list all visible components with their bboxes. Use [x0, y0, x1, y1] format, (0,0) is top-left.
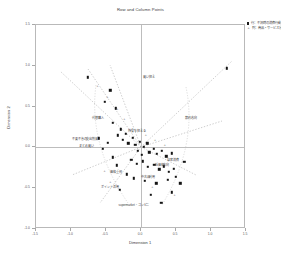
point-label: まとめ買い: [79, 144, 94, 148]
y-tick: [32, 106, 35, 107]
point-label: 自家消費: [167, 158, 179, 162]
data-point: [127, 142, 129, 144]
data-point: [160, 202, 162, 204]
data-point: [150, 194, 152, 196]
data-point: [155, 182, 157, 184]
y-tick: [32, 65, 35, 66]
y-tick-label: 1.5: [25, 22, 30, 26]
data-point: [124, 132, 126, 134]
data-point: +: [106, 97, 109, 100]
point-label: 中古品利用: [141, 175, 156, 179]
x-tick-label: -0.5: [102, 232, 108, 236]
data-point: +: [115, 108, 118, 111]
data-point: [226, 67, 228, 69]
x-tick: [105, 228, 106, 231]
data-point: [112, 156, 114, 158]
data-point: [179, 182, 181, 184]
y-tick: [32, 24, 35, 25]
data-point: [168, 171, 170, 173]
x-tick-label: 0.0: [138, 232, 143, 236]
point-label: 節約志向: [185, 116, 197, 120]
data-point: [107, 141, 109, 143]
y-tick-label: 0.0: [25, 144, 30, 148]
data-point: [133, 177, 135, 179]
x-tick-label: -1.0: [67, 232, 73, 236]
y-tick-label: 1.0: [25, 63, 30, 67]
data-point: [147, 166, 149, 168]
chart-title: Row and Column Points: [0, 7, 281, 12]
legend-plus-marker-icon: +: [247, 27, 250, 30]
legend-square-marker-icon: [247, 22, 249, 24]
data-point: [136, 163, 138, 165]
data-point: +: [163, 144, 166, 147]
data-point: +: [153, 139, 156, 142]
data-point: [134, 144, 136, 146]
data-point: [142, 160, 144, 162]
x-tick: [210, 228, 211, 231]
data-point: [173, 167, 175, 169]
point-label: 買い控え: [143, 75, 155, 79]
data-point: [87, 76, 89, 78]
data-point: [112, 122, 114, 124]
data-point: [171, 152, 173, 154]
data-point: [138, 140, 140, 142]
data-point: [158, 168, 160, 170]
point-label: ポイント活用: [101, 185, 119, 189]
data-point: [109, 89, 111, 91]
x-tick: [70, 228, 71, 231]
data-point: [126, 173, 128, 175]
plot-area: ++++++++++++ 買い控え節約志向代替購入不要不急の支出削減まとめ買い価…: [35, 24, 245, 228]
y-tick-label: -1.0: [24, 226, 30, 230]
data-point: [131, 136, 133, 138]
legend-item-columns: + 列：商品・サービス分野: [247, 26, 281, 31]
y-tick: [32, 228, 35, 229]
data-point: [146, 142, 148, 144]
data-point: +: [173, 195, 176, 198]
data-point: [161, 149, 163, 151]
data-point: [103, 101, 105, 103]
data-point: [175, 176, 177, 178]
data-point: +: [103, 170, 106, 173]
data-point: [165, 155, 167, 157]
point-label: 代替購入: [92, 116, 104, 120]
point-label: 外食を控える: [128, 129, 146, 133]
correspondence-analysis-chart: Row and Column Points ++++++++++++ 買い控え節…: [0, 0, 281, 260]
data-point: [166, 179, 168, 181]
data-point: [117, 134, 119, 136]
data-point: [122, 139, 124, 141]
data-point: [183, 161, 185, 163]
horizontal-zero-axis: [36, 147, 244, 148]
x-tick-label: 0.5: [173, 232, 178, 236]
y-tick-label: 0.5: [25, 104, 30, 108]
x-tick: [245, 228, 246, 231]
point-label: 価格重視: [110, 170, 122, 174]
data-point: [143, 145, 145, 147]
data-point: +: [96, 85, 99, 88]
x-tick-label: 1.5: [243, 232, 248, 236]
y-tick-label: -0.5: [24, 185, 30, 189]
data-point: +: [150, 186, 153, 189]
x-tick: [175, 228, 176, 231]
x-tick-label: -1.5: [32, 232, 38, 236]
x-tick: [35, 228, 36, 231]
data-point: [119, 189, 121, 191]
chart-legend: 行：不況時の消費行動 + 列：商品・サービス分野: [247, 21, 281, 31]
data-point: [130, 158, 132, 160]
data-point: [101, 148, 103, 150]
point-label: 不要不急の支出削減: [72, 137, 99, 141]
y-tick: [32, 146, 35, 147]
data-point: [148, 151, 150, 153]
data-point: [119, 128, 121, 130]
legend-label-columns: 列：商品・サービス分野: [252, 26, 282, 31]
data-point: [171, 191, 173, 193]
x-axis-label: Dimension 1: [35, 240, 245, 245]
data-point: +: [144, 134, 147, 137]
data-point: [156, 153, 158, 155]
data-point: [136, 149, 138, 151]
point-label: 低価格志向: [155, 163, 170, 167]
y-axis-label: Dimension 2: [6, 88, 11, 148]
data-point: +: [122, 118, 125, 121]
vertical-zero-axis: [141, 25, 142, 227]
data-point: [152, 148, 154, 150]
data-point: [140, 154, 142, 156]
